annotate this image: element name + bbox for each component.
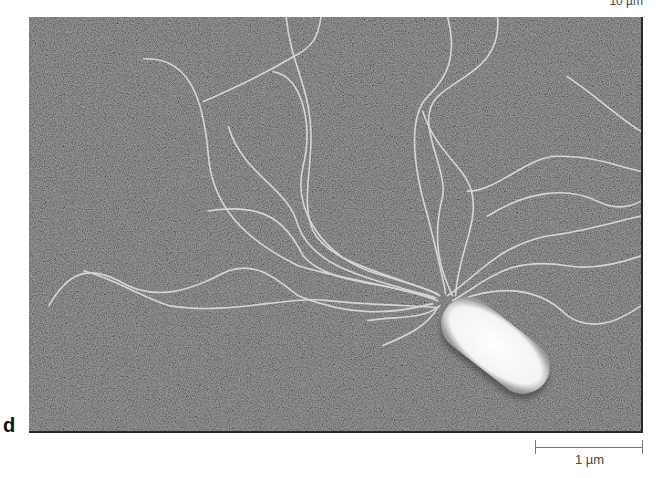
top-scale-label: 10 µm: [609, 0, 643, 8]
scale-bar-tick-left: [535, 440, 536, 454]
scale-bar-line: [535, 447, 643, 448]
electron-micrograph: [29, 17, 643, 433]
panel-label: d: [3, 414, 15, 437]
scale-bar-label: 1 µm: [575, 452, 604, 467]
micrograph-image: [29, 17, 641, 431]
scale-bar-tick-right: [642, 440, 643, 454]
